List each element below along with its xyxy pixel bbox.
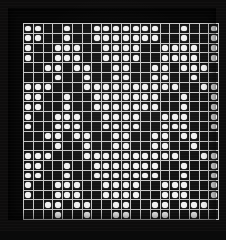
matrix-cell-lit[interactable] [24, 53, 33, 62]
matrix-cell-unlit[interactable] [170, 102, 179, 111]
matrix-cell-lit[interactable] [161, 200, 170, 209]
matrix-cell-lit[interactable] [83, 210, 92, 219]
matrix-cell-lit[interactable] [44, 63, 53, 72]
matrix-cell-lit[interactable] [112, 142, 121, 151]
matrix-cell-unlit[interactable] [44, 142, 53, 151]
matrix-cell-lit[interactable] [209, 53, 218, 62]
matrix-cell-unlit[interactable] [34, 122, 43, 131]
matrix-cell-unlit[interactable] [200, 142, 209, 151]
matrix-cell-lit[interactable] [161, 63, 170, 72]
matrix-cell-unlit[interactable] [141, 181, 150, 190]
matrix-cell-lit[interactable] [170, 53, 179, 62]
matrix-cell-unlit[interactable] [34, 44, 43, 53]
matrix-cell-unlit[interactable] [73, 93, 82, 102]
matrix-cell-lit[interactable] [63, 34, 72, 43]
matrix-cell-lit[interactable] [122, 132, 131, 141]
matrix-cell-lit[interactable] [63, 181, 72, 190]
matrix-cell-unlit[interactable] [53, 151, 62, 160]
matrix-cell-lit[interactable] [141, 24, 150, 33]
matrix-cell-lit[interactable] [131, 151, 140, 160]
matrix-cell-unlit[interactable] [24, 63, 33, 72]
matrix-cell-lit[interactable] [122, 34, 131, 43]
matrix-cell-unlit[interactable] [24, 142, 33, 151]
matrix-cell-unlit[interactable] [200, 24, 209, 33]
matrix-cell-lit[interactable] [92, 93, 101, 102]
matrix-cell-lit[interactable] [102, 112, 111, 121]
matrix-cell-lit[interactable] [151, 73, 160, 82]
matrix-cell-lit[interactable] [73, 63, 82, 72]
matrix-cell-unlit[interactable] [83, 93, 92, 102]
matrix-cell-lit[interactable] [102, 122, 111, 131]
matrix-cell-unlit[interactable] [34, 191, 43, 200]
matrix-cell-unlit[interactable] [63, 142, 72, 151]
matrix-cell-lit[interactable] [122, 151, 131, 160]
matrix-cell-unlit[interactable] [151, 44, 160, 53]
matrix-cell-lit[interactable] [112, 83, 121, 92]
matrix-cell-unlit[interactable] [102, 142, 111, 151]
matrix-cell-unlit[interactable] [34, 53, 43, 62]
matrix-cell-lit[interactable] [122, 102, 131, 111]
matrix-cell-lit[interactable] [190, 53, 199, 62]
matrix-cell-lit[interactable] [141, 93, 150, 102]
matrix-cell-lit[interactable] [73, 44, 82, 53]
matrix-cell-unlit[interactable] [190, 191, 199, 200]
matrix-cell-lit[interactable] [180, 181, 189, 190]
matrix-cell-lit[interactable] [112, 171, 121, 180]
matrix-cell-unlit[interactable] [141, 142, 150, 151]
matrix-cell-lit[interactable] [24, 171, 33, 180]
matrix-cell-unlit[interactable] [170, 24, 179, 33]
matrix-cell-lit[interactable] [102, 171, 111, 180]
matrix-cell-unlit[interactable] [44, 171, 53, 180]
matrix-cell-lit[interactable] [24, 102, 33, 111]
matrix-cell-lit[interactable] [131, 44, 140, 53]
matrix-cell-unlit[interactable] [24, 200, 33, 209]
matrix-cell-lit[interactable] [131, 181, 140, 190]
matrix-cell-lit[interactable] [161, 112, 170, 121]
matrix-cell-lit[interactable] [102, 34, 111, 43]
matrix-cell-unlit[interactable] [44, 93, 53, 102]
matrix-cell-unlit[interactable] [73, 210, 82, 219]
matrix-cell-unlit[interactable] [73, 83, 82, 92]
matrix-cell-lit[interactable] [34, 151, 43, 160]
matrix-cell-lit[interactable] [53, 122, 62, 131]
matrix-cell-lit[interactable] [161, 210, 170, 219]
matrix-cell-unlit[interactable] [209, 210, 218, 219]
matrix-cell-lit[interactable] [53, 142, 62, 151]
matrix-cell-unlit[interactable] [92, 53, 101, 62]
matrix-cell-unlit[interactable] [44, 73, 53, 82]
matrix-cell-unlit[interactable] [34, 112, 43, 121]
matrix-cell-lit[interactable] [83, 83, 92, 92]
matrix-cell-lit[interactable] [180, 171, 189, 180]
matrix-cell-unlit[interactable] [73, 102, 82, 111]
matrix-cell-lit[interactable] [141, 102, 150, 111]
matrix-cell-lit[interactable] [180, 93, 189, 102]
matrix-cell-unlit[interactable] [102, 200, 111, 209]
matrix-cell-lit[interactable] [180, 44, 189, 53]
matrix-cell-lit[interactable] [53, 112, 62, 121]
matrix-cell-lit[interactable] [102, 151, 111, 160]
matrix-cell-lit[interactable] [102, 24, 111, 33]
matrix-cell-lit[interactable] [209, 112, 218, 121]
matrix-cell-unlit[interactable] [161, 171, 170, 180]
matrix-cell-lit[interactable] [102, 53, 111, 62]
matrix-cell-unlit[interactable] [200, 112, 209, 121]
matrix-cell-lit[interactable] [122, 93, 131, 102]
matrix-cell-lit[interactable] [112, 181, 121, 190]
matrix-cell-unlit[interactable] [102, 73, 111, 82]
matrix-cell-lit[interactable] [209, 83, 218, 92]
matrix-cell-unlit[interactable] [141, 200, 150, 209]
matrix-cell-unlit[interactable] [44, 102, 53, 111]
matrix-cell-lit[interactable] [63, 24, 72, 33]
matrix-cell-unlit[interactable] [73, 171, 82, 180]
matrix-cell-lit[interactable] [122, 122, 131, 131]
matrix-cell-lit[interactable] [131, 191, 140, 200]
matrix-cell-lit[interactable] [83, 200, 92, 209]
matrix-cell-lit[interactable] [102, 102, 111, 111]
matrix-cell-unlit[interactable] [200, 34, 209, 43]
matrix-cell-unlit[interactable] [151, 191, 160, 200]
matrix-cell-unlit[interactable] [131, 200, 140, 209]
matrix-cell-unlit[interactable] [141, 73, 150, 82]
matrix-cell-unlit[interactable] [151, 53, 160, 62]
matrix-cell-unlit[interactable] [92, 73, 101, 82]
matrix-cell-unlit[interactable] [190, 83, 199, 92]
